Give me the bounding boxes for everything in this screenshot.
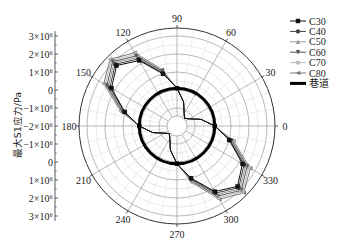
angle-label-210: 210: [76, 175, 91, 186]
legend-item-c70: C70: [290, 57, 326, 68]
marker-square: [240, 162, 244, 166]
radial-tick-label: 3×10⁶: [29, 31, 54, 42]
radial-tick-label: 1×10⁶: [29, 175, 54, 186]
polar-chart: 0306090120150180210240270300330 3×10⁶2×1…: [0, 0, 343, 247]
legend-label: C60: [309, 47, 326, 58]
angle-label-330: 330: [263, 175, 278, 186]
angle-label-270: 270: [170, 229, 185, 240]
legend: C30C40C50C60C70C80巷道: [290, 16, 329, 89]
marker-square: [296, 19, 300, 23]
legend-label: C50: [309, 36, 326, 47]
radial-tick-label: −1×10⁶: [23, 103, 53, 114]
center-hole: [167, 116, 187, 136]
legend-label: 巷道: [309, 77, 329, 89]
polar-grid: [76, 25, 278, 227]
angle-label-240: 240: [116, 214, 131, 225]
marker-square: [227, 138, 231, 142]
marker-square: [114, 63, 118, 67]
angle-label-300: 300: [224, 214, 239, 225]
angle-label-0: 0: [283, 121, 288, 132]
marker-square: [161, 72, 165, 76]
marker-square: [137, 58, 141, 62]
marker-square: [189, 176, 193, 180]
legend-label: C70: [309, 57, 326, 68]
y-axis-label: 最大S1应力/Pa: [12, 92, 23, 158]
radial-axis: 3×10⁶2×10⁶1×10⁶0−1×10⁶−2×10⁶−1×10⁶01×10⁶…: [23, 31, 58, 222]
marker-square: [213, 189, 217, 193]
radial-tick-label: 0: [48, 85, 53, 96]
legend-item-tunnel: 巷道: [290, 77, 329, 89]
legend-item-c30: C30: [290, 16, 326, 27]
angle-label-180: 180: [62, 121, 77, 132]
radial-tick-label: −1×10⁶: [23, 139, 53, 150]
legend-label: C40: [309, 26, 326, 37]
angle-label-30: 30: [266, 67, 276, 78]
angle-label-60: 60: [226, 27, 236, 38]
marker-circle: [296, 60, 300, 64]
angle-label-120: 120: [116, 27, 131, 38]
legend-item-c40: C40: [290, 26, 326, 37]
angle-tick: [262, 76, 265, 78]
marker-square: [109, 86, 113, 90]
angle-tick: [226, 39, 228, 42]
angle-label-90: 90: [172, 13, 182, 24]
legend-item-c80: C80: [290, 68, 326, 79]
radial-tick-label: 2×10⁶: [29, 49, 54, 60]
legend-item-c60: C60: [290, 47, 326, 58]
radial-tick-label: 0: [48, 157, 53, 168]
radial-tick-label: 1×10⁶: [29, 67, 54, 78]
legend-item-c50: C50: [290, 36, 326, 47]
radial-tick-label: 2×10⁶: [29, 193, 54, 204]
marker-triangle: [296, 71, 300, 75]
angle-tick: [127, 39, 129, 42]
radial-tick-label: −2×10⁶: [23, 121, 53, 132]
radial-tick-label: 3×10⁶: [29, 211, 54, 222]
legend-label: C30: [309, 16, 326, 27]
angle-label-150: 150: [76, 67, 91, 78]
marker-circle: [296, 29, 300, 33]
marker-square: [123, 110, 127, 114]
legend-label: C80: [309, 68, 326, 79]
marker-square: [235, 184, 239, 188]
